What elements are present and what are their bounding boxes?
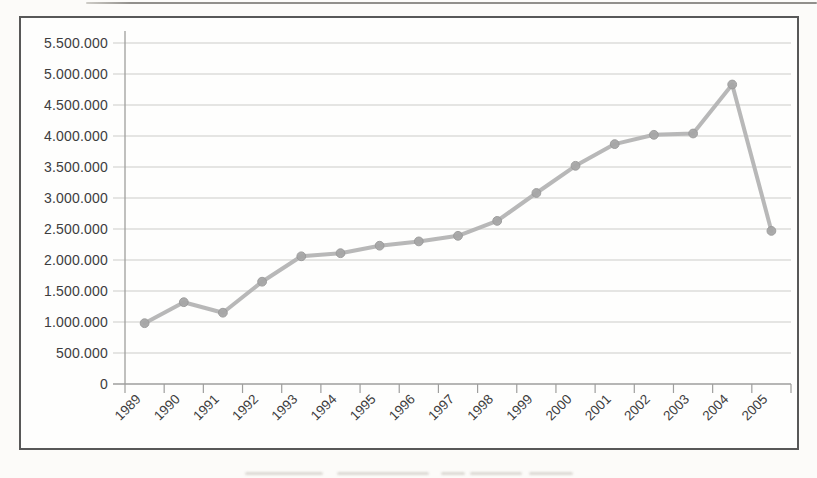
data-point-marker [219,308,228,317]
line-chart: 5.500.0005.000.0004.500.0004.000.0003.50… [0,0,817,478]
cropped-caption-artifact [337,472,429,475]
x-axis-tick-label: 1991 [190,392,222,424]
x-axis-tick-label: 1994 [308,391,340,423]
y-axis-tick-label: 1.500.000 [44,283,108,299]
x-axis-tick-label: 1998 [464,392,496,424]
cropped-caption-artifact [470,472,522,475]
cropped-caption-artifact [529,472,573,475]
y-axis-tick-label: 0 [100,376,108,392]
data-point-marker [414,237,423,246]
x-axis-tick-label: 2000 [543,392,575,424]
x-axis-tick-label: 1999 [504,392,536,424]
y-axis-tick-label: 1.000.000 [44,314,108,330]
y-axis-tick-label: 3.500.000 [44,159,108,175]
data-point-marker [610,140,619,149]
data-point-marker [375,241,384,250]
y-axis-tick-label: 2.500.000 [44,221,108,237]
data-point-marker [767,227,776,236]
x-axis-tick-label: 1990 [151,392,183,424]
y-axis-tick-label: 500.000 [56,345,108,361]
cropped-caption-artifact [441,472,465,475]
data-point-marker [336,249,345,258]
x-axis-tick-label: 1989 [112,392,144,424]
data-point-marker [140,319,149,328]
x-axis-tick-label: 1993 [269,392,301,424]
y-axis-tick-label: 3.000.000 [44,190,108,206]
y-axis-tick-label: 4.500.000 [44,97,108,113]
x-axis-tick-label: 1995 [347,392,379,424]
data-point-marker [728,80,737,89]
data-point-marker [454,231,463,240]
data-point-marker [297,252,306,261]
x-axis-tick-label: 1997 [425,392,457,424]
x-axis-tick-label: 2005 [739,392,771,424]
y-axis-tick-label: 4.000.000 [44,128,108,144]
y-axis-tick-label: 2.000.000 [44,252,108,268]
data-point-marker [571,161,580,170]
data-point-marker [650,130,659,139]
x-axis-tick-label: 2004 [700,391,732,423]
x-axis-tick-label: 2002 [621,392,653,424]
x-axis-tick-label: 2001 [582,392,614,424]
data-point-marker [493,217,502,226]
data-point-marker [689,129,698,138]
data-point-marker [258,277,267,286]
x-axis-tick-label: 2003 [660,392,692,424]
cropped-caption-artifact [245,472,323,475]
y-axis-tick-label: 5.000.000 [44,66,108,82]
x-axis-tick-label: 1992 [229,392,261,424]
x-axis-tick-label: 1996 [386,392,418,424]
data-point-marker [179,298,188,307]
data-line [145,85,772,324]
data-point-marker [532,189,541,198]
y-axis-tick-label: 5.500.000 [44,35,108,51]
